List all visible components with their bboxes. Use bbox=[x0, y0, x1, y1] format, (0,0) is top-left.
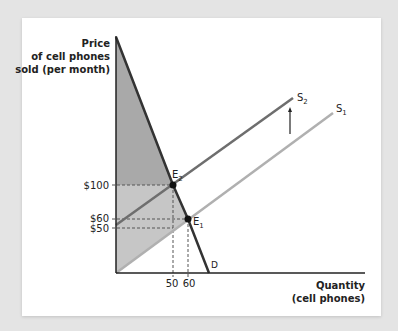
x-axis-label-line1: Quantity bbox=[316, 280, 365, 291]
e1-label: E1 bbox=[193, 216, 204, 230]
y-axis-label-line2: of cell phones bbox=[31, 51, 110, 62]
s1-label: S1 bbox=[336, 103, 347, 117]
shift-arrow-icon bbox=[288, 107, 292, 134]
demand-label: D bbox=[211, 260, 218, 270]
e2-label: E2 bbox=[172, 169, 183, 183]
equilibrium-point-e2 bbox=[170, 182, 177, 189]
equilibrium-point-e1 bbox=[185, 216, 192, 223]
y-tick-50: $50 bbox=[90, 223, 109, 234]
x-tick-60: 60 bbox=[183, 278, 196, 289]
y-axis-label-line1: Price bbox=[82, 38, 111, 49]
x-tick-50: 50 bbox=[166, 278, 179, 289]
y-tick-100: $100 bbox=[84, 180, 109, 191]
y-axis-label-line3: sold (per month) bbox=[15, 64, 110, 75]
x-axis-label-line2: (cell phones) bbox=[292, 293, 365, 304]
supply-demand-chart: Price of cell phones sold (per month) Qu… bbox=[0, 0, 398, 331]
s2-label: S2 bbox=[297, 92, 308, 106]
